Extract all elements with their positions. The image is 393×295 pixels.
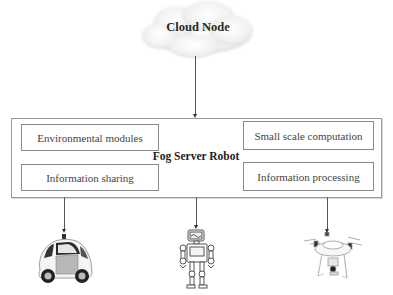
- connector-fog-to-drone: [327, 197, 328, 229]
- module-information-sharing: Information sharing: [21, 164, 159, 191]
- module-information-processing: Information processing: [243, 162, 374, 191]
- fog-architecture-diagram: Cloud Node Environmental modules Informa…: [0, 0, 393, 295]
- connector-cloud-to-fog: [195, 56, 196, 114]
- module-environmental: Environmental modules: [21, 124, 159, 151]
- connector-fog-to-car: [64, 197, 65, 230]
- connector-fog-to-robot: [196, 197, 197, 226]
- fog-server-label: Fog Server Robot: [146, 150, 246, 162]
- cloud-node-label: Cloud Node: [148, 20, 248, 35]
- arrowhead: [62, 229, 66, 233]
- module-small-scale-computation: Small scale computation: [243, 121, 374, 150]
- robot-icon: [176, 228, 218, 292]
- drone-icon: [300, 232, 366, 292]
- car-icon: [34, 234, 96, 288]
